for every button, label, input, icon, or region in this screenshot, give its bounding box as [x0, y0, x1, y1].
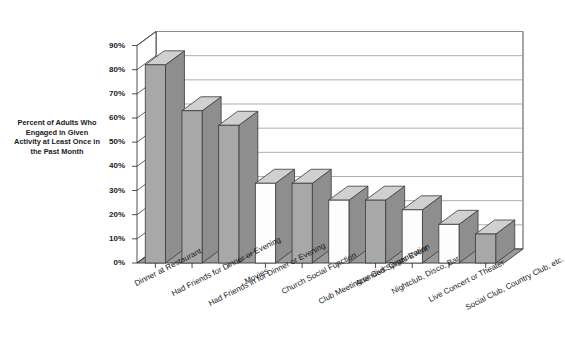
y-axis-tick-label: 40%	[97, 161, 125, 170]
y-axis-tick-label: 30%	[97, 186, 125, 195]
y-axis-tick-label: 50%	[97, 137, 125, 146]
bar	[219, 111, 258, 263]
y-axis-tick-label: 60%	[97, 113, 125, 122]
y-axis-tick-label: 0%	[97, 258, 125, 267]
y-axis-tick-label: 10%	[97, 234, 125, 243]
bar	[329, 186, 368, 263]
bar	[182, 97, 221, 263]
bar	[145, 51, 184, 263]
y-axis-tick-label: 20%	[97, 210, 125, 219]
bar	[365, 186, 404, 263]
y-axis-tick-label: 90%	[97, 41, 125, 50]
y-axis-tick-label: 80%	[97, 65, 125, 74]
y-axis-tick-label: 70%	[97, 89, 125, 98]
